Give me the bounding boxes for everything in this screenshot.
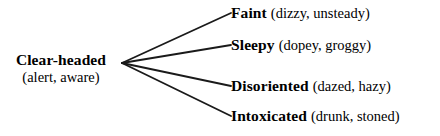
edge-line	[122, 13, 231, 63]
branch-headword: Sleepy	[231, 37, 275, 53]
branch-gloss: (dopey, groggy)	[279, 38, 371, 53]
branch-headword: Intoxicated	[231, 108, 307, 124]
branch-gloss: (dazed, hazy)	[313, 79, 391, 94]
root-node: Clear-headed (alert, aware)	[0, 52, 122, 85]
root-node-gloss: (alert, aware)	[0, 70, 122, 85]
edge-line	[122, 63, 231, 86]
branch-node-intoxicated: Intoxicated (drunk, stoned)	[231, 107, 400, 126]
edge-line	[122, 45, 231, 63]
branch-gloss: (dizzy, unsteady)	[271, 6, 370, 21]
root-node-headword: Clear-headed	[0, 52, 122, 68]
branch-node-sleepy: Sleepy (dopey, groggy)	[231, 36, 371, 55]
branch-node-faint: Faint (dizzy, unsteady)	[231, 4, 370, 23]
branch-headword: Disoriented	[231, 78, 309, 94]
semantic-fan-diagram: Clear-headed (alert, aware) Faint (dizzy…	[0, 0, 440, 136]
branch-node-disoriented: Disoriented (dazed, hazy)	[231, 77, 391, 96]
edge-line	[122, 63, 231, 116]
branch-headword: Faint	[231, 5, 267, 21]
branch-gloss: (drunk, stoned)	[311, 109, 400, 124]
